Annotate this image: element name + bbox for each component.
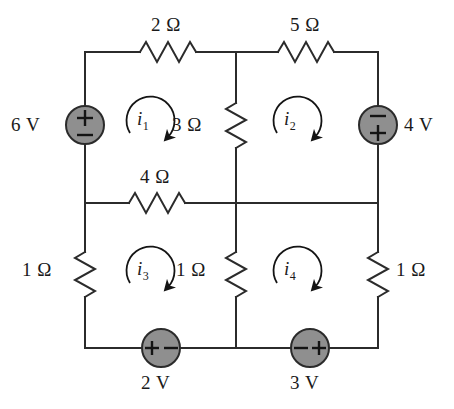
resistor-symbol-3ohm [226, 103, 246, 148]
voltage-source-2v [142, 329, 180, 367]
mesh-arrow-i3 [127, 247, 175, 287]
resistor-symbol-1ohm-right [368, 252, 388, 297]
resistor-label-1ohm-center: 1 Ω [176, 259, 206, 281]
resistor-label-5ohm: 5 Ω [290, 14, 320, 36]
mesh-subscript-i2: 2 [290, 119, 297, 133]
resistor-label-4ohm: 4 Ω [140, 166, 170, 188]
resistor-label-3ohm: 3 Ω [172, 114, 202, 136]
mesh-arrow-i2 [274, 97, 322, 137]
resistor-symbol-4ohm [129, 193, 185, 213]
mesh-label-i3: i3 [137, 258, 149, 284]
resistor-symbol-5ohm [278, 42, 334, 62]
resistor-label-2ohm: 2 Ω [151, 14, 181, 36]
voltage-source-3v [291, 329, 329, 367]
mesh-arrow-i4 [274, 247, 322, 287]
mesh-arrow-i1 [127, 97, 175, 137]
schematic-canvas [0, 0, 454, 409]
resistor-symbol-1ohm-left [75, 252, 95, 297]
mesh-subscript-i1: 1 [143, 119, 150, 133]
circuit-diagram: 2 Ω 5 Ω 3 Ω 4 Ω 1 Ω 1 Ω 1 Ω 6 V 4 V 2 V … [0, 0, 454, 409]
resistor-symbol-2ohm [140, 42, 196, 62]
mesh-label-i2: i2 [284, 108, 296, 134]
resistor-symbol-1ohm-center [226, 252, 246, 297]
mesh-label-i1: i1 [137, 108, 149, 134]
mesh-label-i4: i4 [284, 258, 296, 284]
source-label-4v: 4 V [404, 114, 433, 136]
voltage-source-6v [66, 106, 104, 144]
resistor-label-1ohm-right: 1 Ω [396, 259, 426, 281]
source-label-3v: 3 V [290, 372, 319, 394]
source-label-6v: 6 V [11, 114, 40, 136]
source-label-2v: 2 V [141, 372, 170, 394]
mesh-subscript-i3: 3 [143, 269, 150, 283]
voltage-source-4v [359, 106, 397, 144]
resistor-label-1ohm-left: 1 Ω [22, 259, 52, 281]
mesh-subscript-i4: 4 [290, 269, 297, 283]
